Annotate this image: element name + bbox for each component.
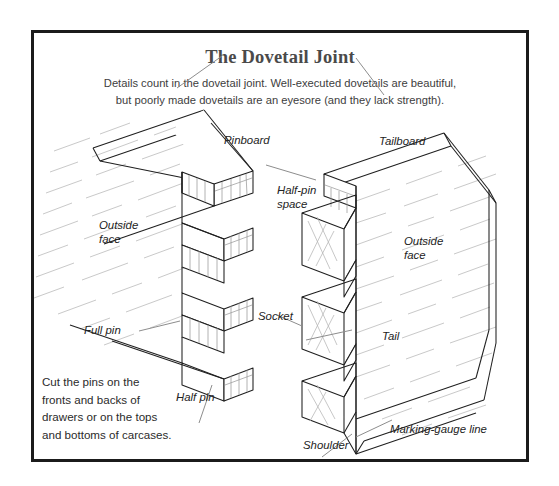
label-outside-face-left-line2: face bbox=[99, 232, 138, 246]
label-outside-face-left: Outside face bbox=[99, 218, 138, 246]
label-half-pin-space-line2: space bbox=[277, 197, 316, 211]
dovetail-joint-figure: The Dovetail Joint Details count in the … bbox=[0, 0, 559, 486]
caption-line-3: drawers or on the tops bbox=[42, 408, 217, 426]
label-half-pin-space: Half-pin space bbox=[277, 183, 316, 211]
tailboard-drawing bbox=[302, 133, 496, 454]
caption-line-1: Cut the pins on the bbox=[42, 373, 217, 391]
label-outside-face-right-line1: Outside bbox=[404, 234, 443, 248]
tailboard-grain bbox=[356, 156, 496, 435]
label-tail: Tail bbox=[382, 329, 399, 343]
pinboard-drawing bbox=[34, 110, 253, 401]
label-socket: Socket bbox=[258, 309, 293, 323]
caption-line-2: fronts and backs of bbox=[42, 391, 217, 409]
label-marking-gauge-line: Marking-gauge line bbox=[390, 422, 487, 436]
label-outside-face-right-line2: face bbox=[404, 248, 443, 262]
label-shoulder: Shoulder bbox=[303, 438, 349, 452]
label-tailboard: Tailboard bbox=[379, 134, 425, 148]
label-outside-face-left-line1: Outside bbox=[99, 218, 138, 232]
label-pinboard: Pinboard bbox=[224, 133, 270, 147]
label-outside-face-right: Outside face bbox=[404, 234, 443, 262]
caption-line-4: and bottoms of carcases. bbox=[42, 426, 217, 444]
label-half-pin-space-line1: Half-pin bbox=[277, 183, 316, 197]
figure-frame: The Dovetail Joint Details count in the … bbox=[31, 30, 529, 462]
label-full-pin: Full pin bbox=[84, 323, 121, 337]
figure-caption: Cut the pins on the fronts and backs of … bbox=[42, 373, 217, 443]
